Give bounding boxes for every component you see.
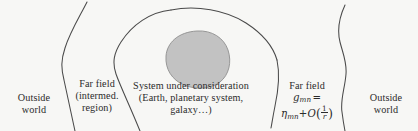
outside-world-right-line-1: Outside xyxy=(356,92,416,104)
equals-glyph: = xyxy=(312,92,321,103)
order-symbol-O: O xyxy=(307,108,315,119)
far-field-intermediate-line-3: region) xyxy=(61,102,133,114)
outside-world-left-line-2: world xyxy=(4,104,64,116)
metric-indices-mn: mn xyxy=(300,95,312,104)
outside-world-right-line-2: world xyxy=(356,104,416,116)
metric-equation-line-1: gmn = xyxy=(264,92,350,105)
system-line-2: (Earth, planetary system, xyxy=(126,92,256,104)
label-far-field-intermediate: Far field (intermed. region) xyxy=(61,78,133,114)
order-fraction: 1r xyxy=(321,105,328,121)
label-far-field-asymptotic: Far field gmn = ηmn+O(1r) xyxy=(264,80,350,121)
order-close-paren: ) xyxy=(328,107,333,121)
minkowski-indices-mn: mn xyxy=(287,111,299,120)
label-system-under-consideration: System under consideration (Earth, plane… xyxy=(126,80,256,116)
system-line-1: System under consideration xyxy=(126,80,256,92)
order-open-paren: ( xyxy=(316,107,321,121)
metric-symbol-g: g xyxy=(293,92,300,103)
outside-world-left-line-1: Outside xyxy=(4,92,64,104)
label-outside-world-right: Outside world xyxy=(356,92,416,116)
spacetime-zones-figure: Outside world Far field (intermed. regio… xyxy=(0,0,418,131)
label-outside-world-left: Outside world xyxy=(4,92,64,116)
system-line-3: galaxy…) xyxy=(126,104,256,116)
far-field-asymptotic-title: Far field xyxy=(264,80,350,92)
metric-equation-line-2: ηmn+O(1r) xyxy=(264,105,350,121)
far-field-intermediate-line-1: Far field xyxy=(61,78,133,90)
order-fraction-denominator: r xyxy=(321,113,328,121)
far-field-intermediate-line-2: (intermed. xyxy=(61,90,133,102)
